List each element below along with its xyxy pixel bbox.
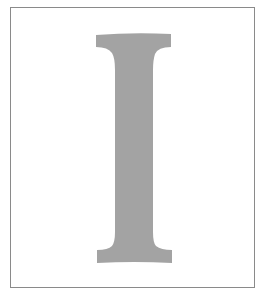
- letter-i-shape: [96, 33, 172, 263]
- letter-i-glyph: [0, 0, 265, 291]
